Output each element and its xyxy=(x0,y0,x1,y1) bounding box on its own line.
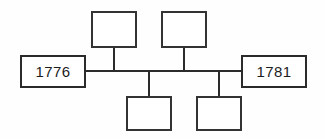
node-box-top-right-child[interactable] xyxy=(161,11,207,48)
connector-stem-top-right xyxy=(183,47,185,71)
node-box-right-year[interactable]: 1781 xyxy=(241,55,307,88)
node-label-right-year: 1781 xyxy=(257,64,292,79)
node-label-left-year: 1776 xyxy=(36,64,71,79)
connector-stem-top-left xyxy=(113,47,115,71)
node-box-bottom-left-child[interactable] xyxy=(126,96,172,131)
connector-stem-bottom-right xyxy=(218,70,220,97)
node-box-left-year[interactable]: 1776 xyxy=(20,55,86,88)
node-box-top-left-child[interactable] xyxy=(91,11,137,48)
connector-stem-bottom-left xyxy=(148,70,150,97)
node-box-bottom-right-child[interactable] xyxy=(196,96,242,131)
family-tree-diagram: 1776 1781 xyxy=(0,0,325,139)
